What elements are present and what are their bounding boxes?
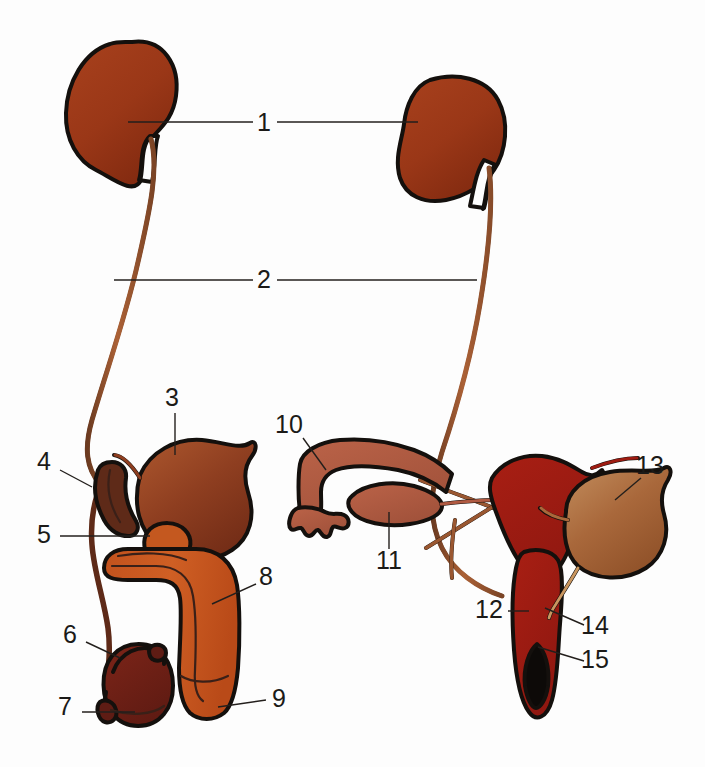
kidney-left <box>66 42 177 187</box>
label-2-ureter[interactable]: 2 <box>257 265 271 293</box>
epididymis-head <box>149 645 166 661</box>
ureter-left-outline <box>87 139 154 484</box>
label-3-urinary-bladder-male[interactable]: 3 <box>165 383 179 411</box>
label-12-cervix-vagina[interactable]: 12 <box>475 595 503 623</box>
label-15-vaginal-opening[interactable]: 15 <box>581 645 609 673</box>
label-9-glans-penis[interactable]: 9 <box>272 684 286 712</box>
urinary-bladder-female <box>565 467 671 578</box>
number-labels-group: 123456789101112131415 <box>37 108 664 720</box>
label-10-fallopian-tube[interactable]: 10 <box>275 410 303 438</box>
ureter-right-fill <box>432 168 502 596</box>
diagram-canvas: 123456789101112131415 <box>0 0 705 767</box>
label-1-kidney[interactable]: 1 <box>257 108 271 136</box>
label-13-urinary-bladder-female[interactable]: 13 <box>636 451 664 479</box>
kidney-left-group <box>66 42 177 187</box>
leader-6 <box>86 642 120 658</box>
ureter-left-group <box>87 139 154 484</box>
label-4-vas-deferens[interactable]: 4 <box>37 447 51 475</box>
leader-4 <box>60 470 92 487</box>
label-6-epididymis[interactable]: 6 <box>63 620 77 648</box>
urogenital-diagram: 123456789101112131415 <box>0 0 705 767</box>
label-14-urethra[interactable]: 14 <box>581 611 609 639</box>
label-7-testis[interactable]: 7 <box>58 692 72 720</box>
label-8-penis[interactable]: 8 <box>259 562 273 590</box>
vas-deferens-ampulla <box>95 462 138 536</box>
ovary <box>348 483 442 525</box>
ureter-left-fill <box>87 139 154 484</box>
vaginal-opening <box>525 644 549 708</box>
label-11-ovary[interactable]: 11 <box>376 546 402 574</box>
label-5-prostate-gland[interactable]: 5 <box>37 520 51 548</box>
fimbriae <box>289 507 348 537</box>
ureter-right-group <box>432 168 502 596</box>
